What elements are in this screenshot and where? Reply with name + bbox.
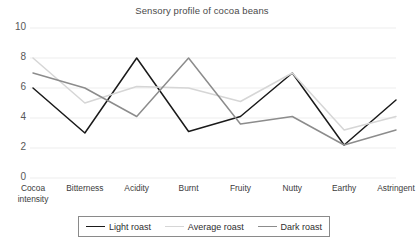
x-axis-tick-label-line: Cocoa — [5, 183, 61, 194]
x-axis-tick-label: Cocoaintensity — [5, 183, 61, 204]
legend-color-swatch — [258, 226, 277, 227]
legend-item[interactable]: Light roast — [86, 222, 151, 232]
y-axis-tick-label: 8 — [2, 51, 26, 62]
x-axis-tick-label: Astringent — [368, 183, 420, 194]
y-axis-tick-label: 10 — [2, 21, 26, 32]
x-axis-tick-label: Nutty — [264, 183, 320, 194]
y-axis-tick-label: 6 — [2, 81, 26, 92]
y-axis-tick-label: 0 — [2, 171, 26, 182]
legend-color-swatch — [86, 226, 105, 227]
legend-color-swatch — [165, 226, 184, 227]
legend-item-label: Light roast — [109, 222, 151, 232]
x-axis-tick-label-line: Bitterness — [57, 183, 113, 194]
y-axis-tick-label: 2 — [2, 141, 26, 152]
series-line — [33, 58, 396, 130]
x-axis-tick-label-line: Burnt — [161, 183, 217, 194]
x-axis-tick-label-line: intensity — [5, 194, 61, 205]
legend-item-label: Dark roast — [281, 222, 323, 232]
x-axis-tick-label: Burnt — [161, 183, 217, 194]
x-axis-tick-label-line: Acidity — [109, 183, 165, 194]
x-axis-tick-label: Bitterness — [57, 183, 113, 194]
chart-legend: Light roastAverage roastDark roast — [78, 216, 330, 237]
legend-item[interactable]: Average roast — [165, 222, 244, 232]
series-lines — [33, 58, 396, 145]
x-axis-tick-label: Fruity — [212, 183, 268, 194]
x-axis-tick-label: Earthy — [316, 183, 372, 194]
legend-item[interactable]: Dark roast — [258, 222, 323, 232]
x-axis-tick-label-line: Fruity — [212, 183, 268, 194]
x-axis-tick-label-line: Astringent — [368, 183, 420, 194]
x-axis-tick-label: Acidity — [109, 183, 165, 194]
legend-item-label: Average roast — [188, 222, 244, 232]
x-axis-tick-label-line: Earthy — [316, 183, 372, 194]
x-axis-tick-label-line: Nutty — [264, 183, 320, 194]
y-axis-tick-label: 4 — [2, 111, 26, 122]
